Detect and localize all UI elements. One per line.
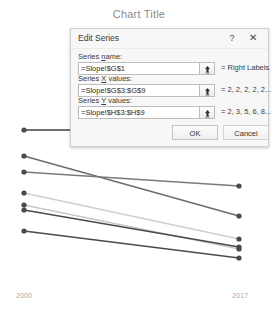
series-y-values-label: Series Y values: (78, 96, 132, 105)
dialog-title: Edit Series (78, 33, 119, 43)
range-picker-icon[interactable] (200, 106, 215, 119)
range-picker-icon[interactable] (200, 84, 215, 97)
series-marker[interactable] (236, 244, 241, 249)
series-marker[interactable] (21, 202, 26, 207)
dialog-titlebar[interactable]: Edit Series ? ✕ (71, 29, 268, 49)
series-marker[interactable] (21, 169, 26, 174)
close-icon[interactable]: ✕ (246, 31, 260, 45)
dialog-button-row: OK Cancel (71, 125, 268, 145)
series-y-values-preview: = 2, 3, 5, 6, 8... (221, 107, 271, 116)
series-marker[interactable] (236, 183, 241, 188)
series-marker[interactable] (236, 255, 241, 260)
series-markers-group (21, 127, 241, 260)
series-marker[interactable] (21, 207, 26, 212)
series-marker[interactable] (21, 127, 26, 132)
series-x-values-preview: = 2, 2, 2, 2, 2... (221, 85, 271, 94)
series-line[interactable] (24, 205, 239, 249)
series-y-values-input[interactable] (78, 106, 200, 119)
series-name-label: Series name: (78, 52, 122, 61)
series-line[interactable] (24, 172, 239, 186)
series-line[interactable] (24, 231, 239, 258)
series-marker[interactable] (236, 236, 241, 241)
chart-title[interactable]: Chart Title (0, 8, 278, 20)
series-marker[interactable] (236, 213, 241, 218)
series-marker[interactable] (21, 228, 26, 233)
series-marker[interactable] (21, 153, 26, 158)
series-name-preview: = Right Labels (221, 63, 269, 72)
range-picker-icon[interactable] (200, 62, 215, 75)
series-y-values-row: = 2, 3, 5, 6, 8... (78, 106, 262, 119)
edit-series-dialog: Edit Series ? ✕ Series name: = Right Lab… (70, 28, 269, 147)
help-icon[interactable]: ? (225, 31, 239, 45)
series-line[interactable] (24, 156, 239, 216)
series-x-values-label: Series X values: (78, 74, 132, 83)
x-axis-label-end: 2017 (232, 292, 248, 299)
series-marker[interactable] (21, 190, 26, 195)
x-axis-label-start: 2000 (16, 292, 32, 299)
cancel-button[interactable]: Cancel (223, 125, 269, 140)
ok-button[interactable]: OK (172, 125, 218, 140)
series-lines-group (24, 130, 239, 258)
